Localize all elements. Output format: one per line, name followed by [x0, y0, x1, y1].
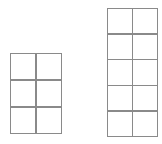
grid-cell	[108, 35, 132, 59]
grid-cell	[133, 9, 157, 33]
grid-cell	[37, 108, 61, 133]
grid-cell	[133, 112, 157, 136]
figure-canvas	[0, 0, 162, 144]
left-rectangle-grid	[10, 53, 62, 134]
grid-cell	[108, 112, 132, 136]
grid-cell	[11, 54, 35, 79]
grid-cell	[37, 81, 61, 106]
grid-cell	[11, 81, 35, 106]
grid-cell	[108, 9, 132, 33]
grid-cell	[37, 54, 61, 79]
grid-cell	[108, 86, 132, 110]
grid-cell	[133, 35, 157, 59]
grid-cell	[108, 60, 132, 84]
grid-cell	[133, 60, 157, 84]
grid-cell	[133, 86, 157, 110]
right-rectangle-grid	[107, 8, 158, 137]
grid-cell	[11, 108, 35, 133]
